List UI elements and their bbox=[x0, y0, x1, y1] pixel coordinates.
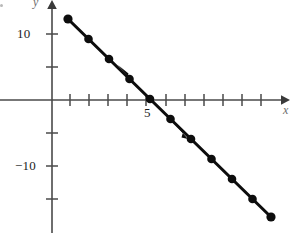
y-axis bbox=[46, 0, 58, 233]
y-axis-name-label: y bbox=[33, 0, 38, 8]
y-tick-label-neg10: −10 bbox=[15, 159, 36, 172]
data-point bbox=[266, 212, 275, 221]
data-point bbox=[125, 75, 134, 84]
data-point bbox=[228, 175, 237, 184]
y-tick-label-10: 10 bbox=[17, 27, 30, 40]
data-point bbox=[105, 55, 114, 64]
data-series-line bbox=[63, 14, 275, 221]
data-point bbox=[63, 14, 72, 23]
data-point bbox=[166, 115, 175, 124]
data-point bbox=[248, 195, 257, 204]
data-point bbox=[207, 155, 216, 164]
data-point bbox=[187, 135, 196, 144]
data-point bbox=[146, 95, 155, 104]
scan-speck bbox=[0, 4, 3, 7]
x-tick-label-5: 5 bbox=[144, 106, 151, 119]
data-point bbox=[84, 35, 93, 44]
graph-figure: 10 −10 5 y x bbox=[0, 0, 292, 233]
x-axis-name-label: x bbox=[283, 104, 288, 116]
y-axis-arrowhead bbox=[47, 0, 57, 9]
